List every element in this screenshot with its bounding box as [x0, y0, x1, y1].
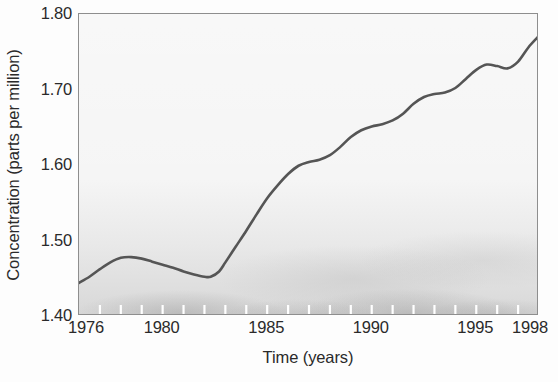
- x-tick-label: 1985: [248, 318, 284, 337]
- y-tick-label: 1.60: [20, 156, 72, 172]
- x-tick-label: 1980: [144, 318, 180, 337]
- y-tick-label: 1.50: [20, 232, 72, 248]
- concentration-line: [79, 36, 538, 283]
- plot-area: [78, 13, 538, 315]
- data-curve-svg: [79, 14, 538, 315]
- x-axis-tick-labels: 197619801985199019951998: [0, 318, 558, 342]
- x-tick-label: 1995: [457, 318, 493, 337]
- x-tick-label: 1998: [512, 318, 548, 337]
- y-tick-label: 1.80: [20, 5, 72, 21]
- x-tick-label: 1976: [68, 318, 104, 337]
- y-tick-label: 1.70: [20, 81, 72, 97]
- x-tick-label: 1990: [353, 318, 389, 337]
- x-axis-title: Time (years): [78, 348, 538, 367]
- chart-figure: Concentration (parts per million) 1.401.…: [0, 0, 558, 382]
- x-minor-ticks: [100, 305, 518, 315]
